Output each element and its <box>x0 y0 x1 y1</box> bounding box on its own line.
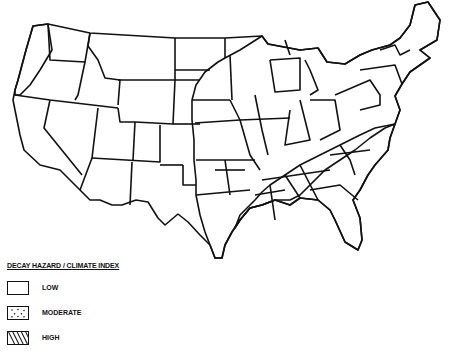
legend-label-high: HIGH <box>42 334 60 341</box>
region-moderate-east <box>192 2 440 258</box>
region-high-southeast <box>235 124 395 250</box>
legend-item-moderate: MODERATE <box>7 300 207 325</box>
high-swatch <box>7 331 29 345</box>
legend-item-low: LOW <box>7 275 207 300</box>
state-borders <box>15 24 410 220</box>
region-moderate-pnw <box>15 24 52 95</box>
region-low <box>13 2 440 258</box>
legend-label-low: LOW <box>42 284 58 291</box>
legend-label-moderate: MODERATE <box>42 309 82 316</box>
legend-title: DECAY HAZARD / CLIMATE INDEX <box>7 262 207 269</box>
moderate-swatch <box>7 306 29 320</box>
legend: DECAY HAZARD / CLIMATE INDEX LOW MODERAT… <box>7 262 207 350</box>
legend-item-high: HIGH <box>7 325 207 350</box>
low-swatch <box>7 281 29 295</box>
decay-hazard-map: DECAY HAZARD / CLIMATE INDEX LOW MODERAT… <box>0 0 449 355</box>
